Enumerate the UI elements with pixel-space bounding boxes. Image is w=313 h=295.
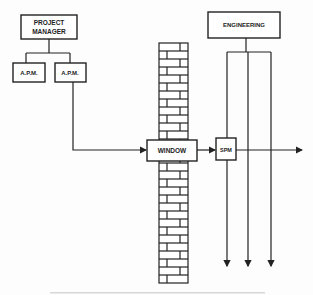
apm-left-node: A.P.M. xyxy=(13,63,45,82)
svg-text:A.P.M.: A.P.M. xyxy=(61,70,79,76)
brick-wall xyxy=(159,43,188,283)
svg-text:SPM: SPM xyxy=(220,147,232,153)
apm-right-node: A.P.M. xyxy=(55,63,86,82)
svg-text:WINDOW: WINDOW xyxy=(158,147,187,154)
svg-text:A.P.M.: A.P.M. xyxy=(20,70,38,76)
faint-caption xyxy=(50,292,265,294)
svg-text:PROJECT: PROJECT xyxy=(34,19,65,26)
engineering-node: ENGINEERING xyxy=(208,12,280,38)
spm-node: SPM xyxy=(216,138,236,160)
window-node: WINDOW xyxy=(147,140,197,161)
project-manager-node: PROJECT MANAGER xyxy=(21,15,77,39)
pm-connector xyxy=(26,39,70,63)
svg-text:ENGINEERING: ENGINEERING xyxy=(223,22,265,28)
svg-text:MANAGER: MANAGER xyxy=(32,28,66,35)
apm-to-window-arrow xyxy=(73,82,146,150)
org-diagram: PROJECT MANAGER A.P.M. A.P.M. WINDOW ENG… xyxy=(0,0,313,295)
